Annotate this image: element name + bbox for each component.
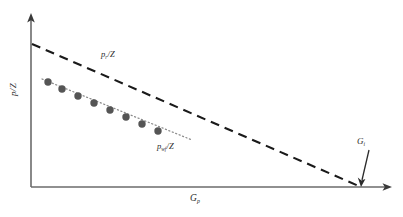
flowing-pressure-line-label: pwf/Z	[157, 141, 174, 151]
data-point	[90, 99, 97, 106]
data-point	[138, 120, 145, 127]
reservoir-pressure-dashed-line	[32, 44, 361, 187]
data-point-markers	[44, 78, 161, 134]
x-axis-label-base: G	[190, 193, 197, 203]
data-point	[122, 113, 129, 120]
y-axis-label-slash: /	[8, 88, 18, 91]
data-point	[74, 92, 81, 99]
y-axis-label-text: p	[8, 91, 18, 96]
axes-group	[27, 13, 392, 191]
x-axis-label-subscript: p	[197, 198, 200, 204]
data-point	[58, 85, 65, 92]
intercept-label-subscript: i	[364, 141, 366, 147]
intercept-label-base: G	[357, 136, 364, 146]
flowing-label-denominator: Z	[169, 141, 174, 151]
reservoir-label-denominator: Z	[110, 49, 115, 59]
data-point	[106, 106, 113, 113]
y-axis-label-denominator: Z	[8, 83, 18, 88]
data-point	[154, 127, 161, 134]
x-axis-label: Gp	[190, 193, 200, 203]
intercept-label: Gi	[357, 136, 365, 146]
plot-canvas	[0, 0, 403, 217]
intercept-arrow-shaft	[362, 150, 369, 180]
y-axis-label: p/Z	[8, 83, 18, 96]
pz-vs-gp-figure: p/Z Gp pr/Z pwf/Z Gi	[0, 0, 403, 217]
data-point	[44, 78, 51, 85]
flowing-label-subscript: wf	[161, 146, 166, 152]
intercept-arrow-group	[358, 150, 369, 187]
intercept-label-math: Gi	[357, 136, 365, 146]
x-axis-label-text: Gp	[190, 193, 200, 203]
flowing-label-math: pwf	[157, 141, 166, 151]
reservoir-pressure-line-label: pr/Z	[101, 49, 115, 59]
